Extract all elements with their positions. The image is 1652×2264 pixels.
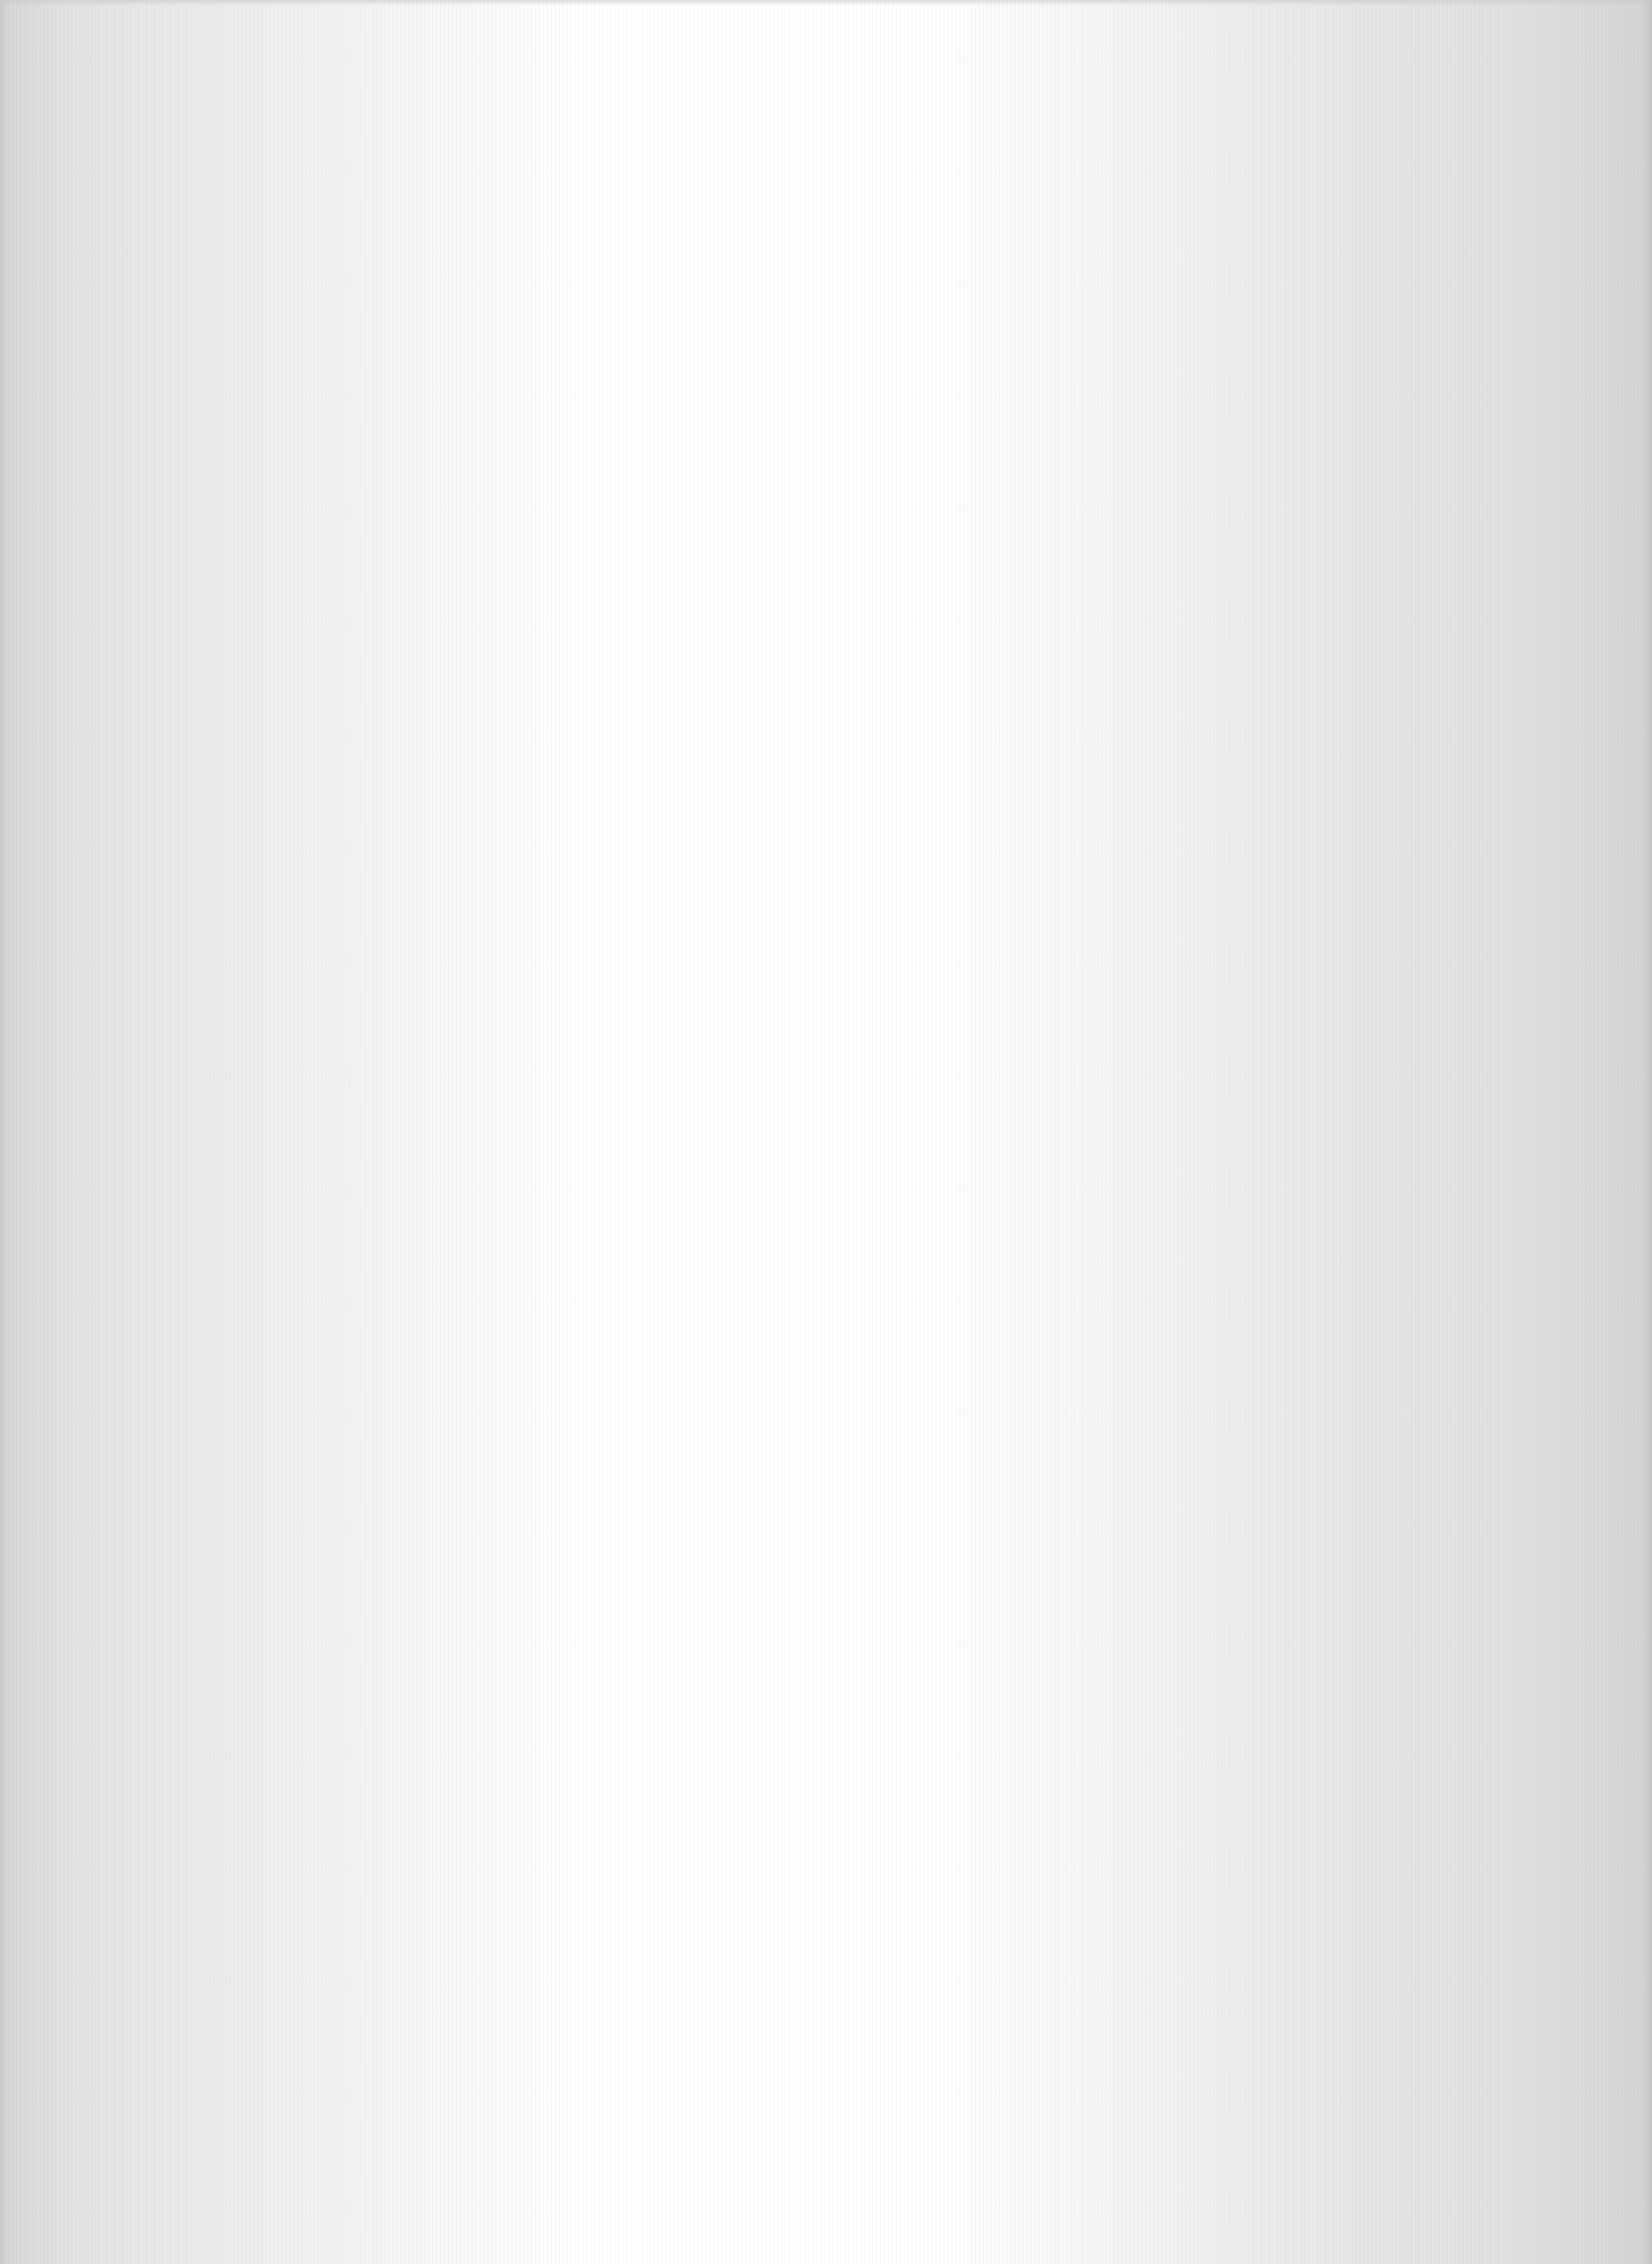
- page-edge-left: [0, 0, 8, 2264]
- page-edge-top: [0, 0, 1652, 6]
- paper-texture: [0, 0, 1652, 2264]
- blank-scanned-page: [0, 0, 1652, 2264]
- page-edge-right: [1642, 0, 1652, 2264]
